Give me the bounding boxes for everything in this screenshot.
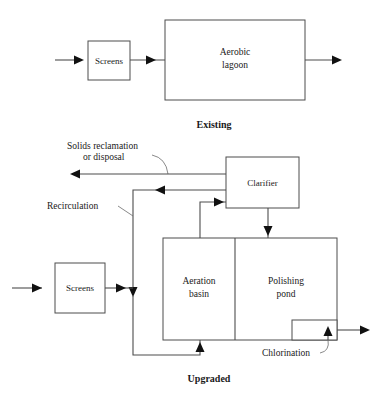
existing-screens-to-lagoon-flow [130,56,165,65]
upgraded-screens-to-junction-flow [105,284,133,293]
existing-outlet-flow [305,56,342,65]
chlorination-leader-line [320,340,328,353]
screens-existing-box: Screens [88,41,130,80]
clarifier-label: Clarifier [247,178,278,188]
solids-reclamation-label-line1: Solids reclamation [67,141,138,151]
polishing-pond-label-line1: Polishing [268,276,304,286]
aerobic-lagoon-label-line1: Aerobic [220,47,251,57]
process-flow-diagram: Screens Aerobic lagoon Existing Solids r… [0,0,382,400]
aerobic-lagoon-box: Aerobic lagoon [165,20,305,100]
solids-reclamation-leader-line [152,155,168,174]
solids-reclamation-label-line2: or disposal [83,152,125,162]
chlorination-label: Chlorination [262,348,310,358]
screens-existing-label: Screens [95,56,123,66]
flow-diagram-canvas: Screens Aerobic lagoon Existing Solids r… [0,0,382,400]
screens-upgraded-label: Screens [66,283,94,293]
existing-caption: Existing [196,119,231,130]
screens-upgraded-box: Screens [55,263,105,313]
chlorination-chamber-box [292,320,337,340]
aeration-basin-label-line1: Aeration [182,276,215,286]
aeration-to-clarifier-flow [200,198,226,239]
aerobic-lagoon-label-line2: lagoon [222,60,248,70]
upgraded-inlet-flow [12,284,42,293]
upgraded-outlet-flow [337,326,370,335]
recirculation-label: Recirculation [47,201,98,211]
clarifier-box: Clarifier [226,157,299,208]
polishing-pond-label-line2: pond [277,289,296,299]
solids-waste-flow [70,170,226,179]
clarifier-to-polishing-flow [264,208,273,238]
aeration-basin-label-line2: basin [189,289,209,299]
upgraded-caption: Upgraded [188,373,231,384]
recirculation-leader-line [118,206,133,216]
existing-inlet-flow [55,56,84,65]
